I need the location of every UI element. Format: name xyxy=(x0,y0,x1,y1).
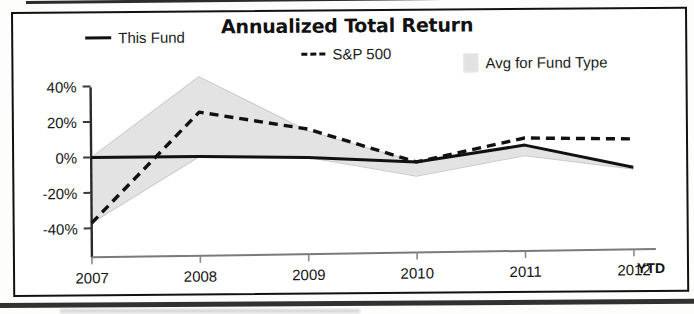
annualized-total-return-chart: Annualized Total Return This Fund S&P 50… xyxy=(11,7,685,293)
svg-text:2008: 2008 xyxy=(184,268,218,285)
svg-text:2011: 2011 xyxy=(509,263,541,280)
svg-text:40%: 40% xyxy=(46,78,76,95)
scanned-page-background: Annualized Total Return This Fund S&P 50… xyxy=(0,0,694,314)
svg-text:20%: 20% xyxy=(47,114,77,131)
x-axis-tick-labels: 200720082009201020112012 xyxy=(75,261,651,286)
svg-text:0%: 0% xyxy=(55,149,77,166)
scan-top-edge-line xyxy=(26,0,692,4)
avg-fund-type-band xyxy=(91,73,634,223)
y-axis-tick-labels: 40%20%0%-20%-40% xyxy=(41,78,77,237)
svg-text:2009: 2009 xyxy=(292,266,326,283)
svg-text:-20%: -20% xyxy=(42,185,77,202)
scan-bottom-smudge xyxy=(60,309,360,313)
svg-text:-40%: -40% xyxy=(43,220,78,237)
svg-text:2007: 2007 xyxy=(75,269,109,286)
chart-plot-svg: 40%20%0%-20%-40% 20072008200920102011201… xyxy=(11,7,685,293)
x-axis-ytd-label: YTD xyxy=(637,260,665,276)
svg-text:2010: 2010 xyxy=(401,264,435,281)
scan-bottom-edge-line xyxy=(0,299,694,308)
